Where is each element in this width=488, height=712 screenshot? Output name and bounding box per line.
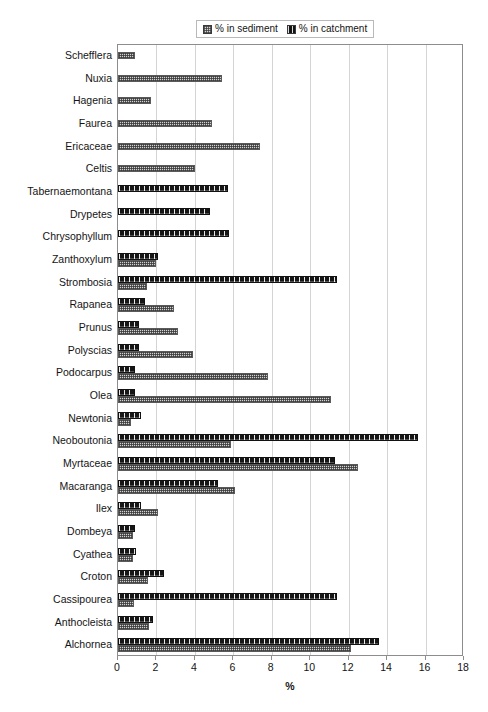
bar-sediment — [118, 120, 212, 127]
bar-sediment — [118, 283, 147, 290]
bar-catchment — [118, 344, 139, 351]
legend-entry-sediment: % in sediment — [203, 24, 278, 34]
y-axis-label: Schefflera — [5, 50, 117, 61]
bar-group — [118, 158, 462, 181]
x-tick-mark — [155, 656, 156, 660]
bar-sediment — [118, 464, 358, 471]
bar-catchment — [118, 593, 337, 600]
y-axis-label: Macaranga — [5, 481, 117, 492]
bar-group — [118, 113, 462, 136]
bar-group — [118, 340, 462, 363]
bar-group — [118, 476, 462, 499]
bar-group — [118, 362, 462, 385]
bar-group — [118, 498, 462, 521]
y-axis-label: Olea — [5, 390, 117, 401]
bar-sediment — [118, 305, 174, 312]
x-tick-mark — [348, 656, 349, 660]
y-axis-label: Tabernaemontana — [5, 186, 117, 197]
x-tick-label: 0 — [114, 662, 120, 673]
bar-catchment — [118, 616, 153, 623]
bar-sediment — [118, 600, 134, 607]
bar-group — [118, 272, 462, 295]
bar-group — [118, 68, 462, 91]
chart-legend: % in sediment % in catchment — [196, 20, 374, 38]
y-axis-label: Cyathea — [5, 549, 117, 560]
y-axis-label: Croton — [5, 571, 117, 582]
bar-catchment — [118, 321, 139, 328]
bar-group — [118, 453, 462, 476]
bar-group — [118, 90, 462, 113]
y-axis-label: Podocarpus — [5, 367, 117, 378]
y-axis-label: Celtis — [5, 163, 117, 174]
y-axis-label: Zanthoxylum — [5, 254, 117, 265]
bar-group — [118, 136, 462, 159]
bar-catchment — [118, 548, 136, 555]
bar-group — [118, 294, 462, 317]
bar-group — [118, 634, 462, 656]
bar-group — [118, 249, 462, 272]
bar-sediment — [118, 645, 351, 652]
bar-catchment — [118, 185, 228, 192]
bar-catchment — [118, 434, 418, 441]
bar-group — [118, 317, 462, 340]
y-axis-label: Hagenia — [5, 95, 117, 106]
bar-sediment — [118, 165, 195, 172]
x-axis-title: % — [117, 680, 463, 692]
x-tick-mark — [309, 656, 310, 660]
catchment-swatch-icon — [287, 25, 296, 34]
y-axis-label: Polyscias — [5, 345, 117, 356]
y-axis-category-labels: ScheffleraNuxiaHageniaFaureaEricaceaeCel… — [0, 44, 117, 656]
x-tick-label: 2 — [153, 662, 159, 673]
y-axis-label: Neoboutonia — [5, 435, 117, 446]
x-tick-label: 4 — [191, 662, 197, 673]
bar-sediment — [118, 143, 260, 150]
bar-catchment — [118, 502, 141, 509]
bar-sediment — [118, 328, 178, 335]
bar-group — [118, 408, 462, 431]
y-axis-label: Newtonia — [5, 413, 117, 424]
x-tick-mark — [194, 656, 195, 660]
bar-group — [118, 612, 462, 635]
y-axis-label: Rapanea — [5, 299, 117, 310]
x-tick-label: 14 — [380, 662, 392, 673]
x-axis: 024681012141618 — [117, 656, 463, 680]
x-tick-label: 8 — [268, 662, 274, 673]
y-axis-label: Anthocleista — [5, 617, 117, 628]
x-tick-label: 12 — [342, 662, 354, 673]
bar-group — [118, 521, 462, 544]
bar-sediment — [118, 623, 149, 630]
bar-catchment — [118, 389, 135, 396]
bar-catchment — [118, 457, 335, 464]
y-axis-label: Dombeya — [5, 526, 117, 537]
bar-sediment — [118, 97, 151, 104]
legend-label-sediment: % in sediment — [215, 24, 278, 34]
x-tick-mark — [386, 656, 387, 660]
bar-group — [118, 204, 462, 227]
y-axis-label: Strombosia — [5, 277, 117, 288]
bar-catchment — [118, 230, 229, 237]
x-tick-mark — [463, 656, 464, 660]
bar-sediment — [118, 351, 193, 358]
bar-group — [118, 544, 462, 567]
y-axis-label: Prunus — [5, 322, 117, 333]
legend-entry-catchment: % in catchment — [287, 24, 367, 34]
bar-sediment — [118, 373, 268, 380]
bar-catchment — [118, 253, 158, 260]
bar-sediment — [118, 75, 222, 82]
bar-group — [118, 566, 462, 589]
y-axis-label: Cassipourea — [5, 594, 117, 605]
bar-sediment — [118, 441, 231, 448]
bar-catchment — [118, 412, 141, 419]
x-tick-label: 6 — [229, 662, 235, 673]
y-axis-label: Faurea — [5, 118, 117, 129]
bar-catchment — [118, 570, 164, 577]
bar-catchment — [118, 480, 218, 487]
bar-group — [118, 181, 462, 204]
y-axis-label: Drypetes — [5, 209, 117, 220]
bar-group — [118, 589, 462, 612]
x-tick-mark — [271, 656, 272, 660]
bar-chart: % in sediment % in catchment ScheffleraN… — [0, 0, 488, 712]
plot-area — [117, 44, 463, 656]
legend-label-catchment: % in catchment — [299, 24, 367, 34]
y-axis-label: Ericaceae — [5, 141, 117, 152]
